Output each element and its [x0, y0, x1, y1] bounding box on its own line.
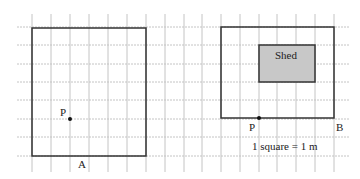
grid-diagram — [0, 0, 360, 179]
scale-label: 1 square = 1 m — [252, 141, 317, 152]
side-a-label: A — [78, 159, 86, 170]
corner-b-label: B — [336, 122, 343, 133]
left-point-label: P — [60, 107, 66, 118]
right-point-p — [257, 116, 261, 120]
shed-label: Shed — [275, 50, 297, 61]
left-point-p — [68, 117, 72, 121]
right-point-label: P — [249, 122, 255, 133]
